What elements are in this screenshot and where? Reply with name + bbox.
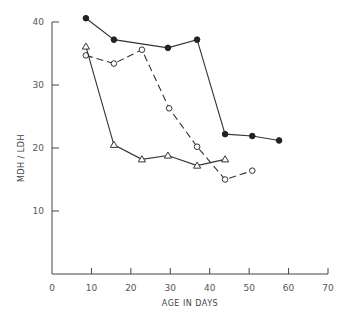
open-circle-marker bbox=[194, 144, 200, 150]
open-triangle-marker bbox=[221, 156, 228, 162]
filled-circle-marker bbox=[222, 131, 228, 137]
y-tick-label: 10 bbox=[33, 206, 45, 216]
x-axis-title: AGE IN DAYS bbox=[162, 299, 218, 308]
x-tick-label: 30 bbox=[165, 283, 177, 293]
open-triangle-marker bbox=[82, 43, 89, 49]
filled-circle-marker bbox=[83, 15, 89, 21]
x-tick-label: 60 bbox=[283, 283, 295, 293]
filled-circle-marker bbox=[194, 37, 200, 43]
filled-circle-marker bbox=[276, 138, 282, 144]
open-triangle-marker bbox=[110, 141, 117, 147]
open-circle-marker bbox=[111, 61, 117, 67]
filled-circle-marker bbox=[249, 133, 255, 139]
y-tick-label: 30 bbox=[33, 80, 45, 90]
x-tick-label: 40 bbox=[204, 283, 216, 293]
axes bbox=[52, 22, 328, 274]
filled-circle-marker bbox=[165, 45, 171, 51]
open-triangle-marker bbox=[164, 152, 171, 158]
axis-labels: 01020304050607010203040AGE IN DAYSMDH / … bbox=[17, 17, 334, 308]
x-tick-label: 70 bbox=[322, 283, 334, 293]
x-tick-label: 20 bbox=[125, 283, 137, 293]
open-circle-marker bbox=[249, 168, 255, 174]
y-axis-title: MDH / LDH bbox=[17, 134, 26, 182]
open-circle-marker bbox=[166, 106, 172, 112]
filled-circle-marker bbox=[111, 37, 117, 43]
x-tick-label: 0 bbox=[49, 283, 55, 293]
open-circle-marker bbox=[139, 47, 145, 53]
x-tick-label: 50 bbox=[243, 283, 255, 293]
y-tick-label: 20 bbox=[33, 143, 45, 153]
y-tick-label: 40 bbox=[33, 17, 45, 27]
line-chart: 01020304050607010203040AGE IN DAYSMDH / … bbox=[0, 0, 351, 327]
open-circle-marker bbox=[222, 177, 228, 183]
x-tick-label: 10 bbox=[86, 283, 98, 293]
data-series bbox=[82, 15, 282, 182]
